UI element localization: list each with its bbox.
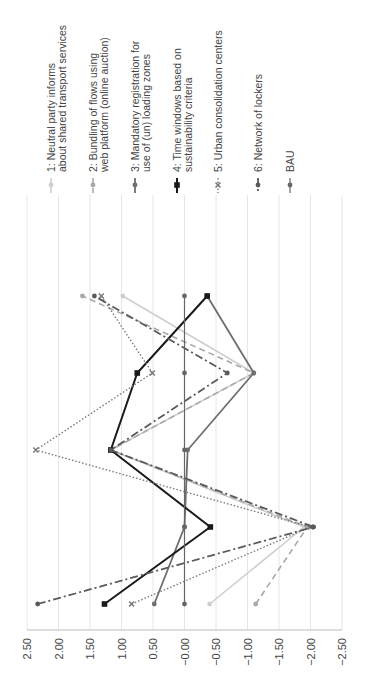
axis-tick-label: −1.00: [242, 638, 254, 666]
data-point-marker: [288, 183, 293, 188]
axis-tick-label: 1.00: [116, 638, 128, 659]
axis-tick-label: 0.50: [147, 638, 159, 659]
data-point-marker: [129, 602, 134, 607]
legend-item: 1: Neutral party informsabout shared tra…: [45, 25, 68, 193]
rotated-line-chart: 2.502.001.501.000.50−0.00−0.50−1.00−1.50…: [0, 0, 365, 681]
legend-item: 2: Bundling of flows usingweb platform (…: [87, 37, 110, 193]
data-point-marker: [182, 602, 187, 607]
axis-tick-label: 1.50: [84, 638, 96, 659]
data-point-marker: [91, 183, 96, 188]
legend-label: BAU: [284, 150, 296, 172]
data-point-marker: [102, 601, 108, 607]
data-point-marker: [204, 293, 210, 299]
axis-tick-label: −2.00: [305, 638, 317, 666]
data-point-marker: [253, 602, 258, 607]
legend-item: 4: Time windows based onsustainability c…: [171, 48, 194, 193]
series-line: [35, 294, 316, 607]
data-point-marker: [99, 294, 104, 299]
data-point-marker: [182, 294, 187, 299]
series-line: [33, 294, 313, 607]
data-point-marker: [182, 448, 187, 453]
data-point-marker: [182, 371, 187, 376]
legend-item: BAU: [284, 150, 296, 193]
data-point-marker: [80, 294, 85, 299]
data-point-marker: [174, 182, 180, 188]
legend-label: 6: Network of lockers: [252, 74, 264, 172]
data-point-marker: [49, 183, 54, 188]
data-point-marker: [311, 525, 316, 530]
data-point-marker: [108, 448, 113, 453]
data-point-marker: [251, 371, 256, 376]
data-point-marker: [208, 524, 214, 530]
data-point-marker: [33, 448, 38, 453]
series-lines: [33, 293, 316, 607]
data-point-marker: [152, 602, 157, 607]
series-line: [108, 294, 306, 607]
data-point-marker: [207, 602, 212, 607]
value-axis: 2.502.001.501.000.50−0.00−0.50−1.00−1.50…: [21, 630, 348, 666]
axis-tick-label: 2.00: [53, 638, 65, 659]
data-point-marker: [216, 183, 221, 188]
legend: 1: Neutral party informsabout shared tra…: [45, 25, 296, 193]
axis-tick-label: −1.50: [273, 638, 285, 666]
data-point-marker: [150, 371, 155, 376]
chart-canvas: 2.502.001.501.000.50−0.00−0.50−1.00−1.50…: [0, 0, 365, 681]
data-point-marker: [134, 370, 140, 376]
axis-tick-label: −2.50: [336, 638, 348, 666]
legend-item: 6: Network of lockers: [252, 74, 264, 193]
data-point-marker: [133, 183, 138, 188]
axis-tick-label: −0.00: [179, 638, 191, 666]
legend-label: use of (un) loading zones: [140, 54, 152, 172]
data-point-marker: [256, 183, 261, 188]
legend-item: 5: Urban consolidation centers: [212, 30, 224, 193]
data-point-marker: [92, 294, 97, 299]
data-point-marker: [35, 602, 40, 607]
axis-tick-label: −0.50: [210, 638, 222, 666]
axis-tick-label: 2.50: [21, 638, 33, 659]
data-point-marker: [120, 294, 125, 299]
legend-label: web platform (online auction): [98, 37, 110, 173]
data-point-marker: [182, 525, 187, 530]
legend-label: about shared transport services: [56, 25, 68, 172]
legend-label: sustainability criteria: [182, 77, 194, 172]
legend-label: 5: Urban consolidation centers: [212, 30, 224, 172]
legend-item: 3: Mandatory registration foruse of (un)…: [129, 40, 152, 193]
data-point-marker: [225, 371, 230, 376]
